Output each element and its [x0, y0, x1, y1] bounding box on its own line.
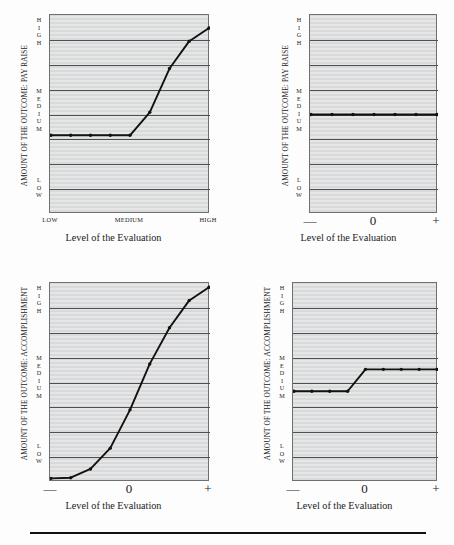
y-axis-title-wrapper: AMOUNT OF THE OUTCOME: PAY RAISE [18, 8, 32, 223]
y-scale-letter: M [33, 87, 45, 95]
data-series-line [51, 287, 209, 478]
y-axis-title: AMOUNT OF THE OUTCOME: ACCOMPLISHMENT [261, 266, 275, 481]
data-point [128, 408, 131, 411]
y-scale-high: H I G H [33, 284, 45, 314]
x-tick-label: — [304, 213, 317, 229]
plot-area [309, 14, 437, 213]
y-scale-letter: D [276, 369, 288, 377]
y-axis-title: AMOUNT OF THE OUTCOME: PAY RAISE [18, 8, 32, 223]
y-scale-letter: M [293, 125, 305, 133]
plot-area [49, 282, 209, 481]
y-scale-letter: G [33, 299, 45, 307]
x-tick-label: 0 [126, 481, 133, 497]
data-point [128, 134, 131, 137]
data-point [69, 476, 72, 479]
plot-svg [50, 283, 210, 482]
x-tick-label: HIGH [199, 216, 216, 223]
x-tick-label: LOW [42, 216, 57, 223]
y-scale-letter: E [293, 95, 305, 103]
data-point [328, 390, 331, 393]
y-scale-letter: W [293, 191, 305, 199]
y-scale-letter: I [33, 24, 45, 32]
x-tick-label: MEDIUM [115, 216, 143, 223]
y-scale-high: H I G H [293, 16, 305, 46]
y-scale-letter: D [33, 369, 45, 377]
chart-panel-top-left: AMOUNT OF THE OUTCOME: PAY RAISE H I G H… [0, 0, 227, 250]
data-point [50, 134, 53, 137]
y-scale-letter: M [33, 354, 45, 362]
x-tick-label: 0 [361, 481, 368, 497]
y-scale-letter: D [33, 102, 45, 110]
data-point [351, 113, 354, 116]
y-scale-letter: W [276, 457, 288, 465]
y-scale-letter: O [33, 184, 45, 192]
y-scale-letter: O [293, 184, 305, 192]
figure-page: AMOUNT OF THE OUTCOME: PAY RAISE H I G H… [0, 0, 454, 545]
x-axis-title: Level of the Evaluation [0, 500, 227, 511]
data-point [188, 39, 191, 42]
y-scale-letter: E [276, 362, 288, 370]
y-scale-letter: H [33, 307, 45, 315]
y-scale-letter: G [293, 31, 305, 39]
y-axis-title-wrapper: AMOUNT OF THE OUTCOME: ACCOMPLISHMENT [18, 266, 32, 481]
y-scale-letter: L [33, 442, 45, 450]
y-scale-letter: M [276, 392, 288, 400]
data-point [69, 134, 72, 137]
x-tick-label: + [432, 213, 439, 229]
plot-svg [310, 15, 438, 214]
y-scale-letter: D [293, 102, 305, 110]
y-scale-letter: H [293, 39, 305, 47]
y-scale-high: H I G H [276, 284, 288, 314]
y-scale-letter: I [293, 110, 305, 118]
data-point [414, 113, 417, 116]
plot-svg [293, 283, 438, 482]
data-point [109, 446, 112, 449]
data-point [89, 134, 92, 137]
y-scale-letter: I [276, 377, 288, 385]
y-axis-title: AMOUNT OF THE OUTCOME: PAY RAISE [279, 8, 293, 223]
y-scale-letter: I [33, 292, 45, 300]
x-tick-label: 0 [370, 213, 377, 229]
chart-panel-bottom-left: AMOUNT OF THE OUTCOME: ACCOMPLISHMENT H … [0, 258, 227, 508]
x-tick-label: — [44, 481, 57, 497]
data-point [148, 362, 151, 365]
y-scale-medium: M E D I U M [33, 87, 45, 133]
footer-divider [30, 532, 426, 534]
y-scale-letter: M [33, 125, 45, 133]
x-axis-title: Level of the Evaluation [235, 500, 454, 511]
y-scale-letter: H [276, 284, 288, 292]
chart-panel-top-right: AMOUNT OF THE OUTCOME: PAY RAISE H I G H… [227, 0, 454, 250]
y-scale-letter: I [276, 292, 288, 300]
data-point [89, 467, 92, 470]
y-scale-letter: L [293, 176, 305, 184]
y-scale-letter: M [293, 87, 305, 95]
data-point [382, 368, 385, 371]
data-point [364, 368, 367, 371]
data-point [330, 113, 333, 116]
y-scale-letter: U [276, 384, 288, 392]
plot-area [49, 14, 209, 213]
y-scale-letter: H [276, 307, 288, 315]
x-axis-title: Level of the Evaluation [243, 232, 454, 243]
x-tick-label: + [204, 481, 211, 497]
data-series-line [294, 369, 437, 391]
data-point [310, 390, 313, 393]
data-point [109, 134, 112, 137]
y-scale-letter: G [276, 299, 288, 307]
y-axis-title-wrapper: AMOUNT OF THE OUTCOME: PAY RAISE [279, 8, 293, 223]
y-scale-low: L O W [276, 442, 288, 465]
y-scale-letter: G [33, 31, 45, 39]
y-scale-letter: E [33, 95, 45, 103]
data-point [372, 113, 375, 116]
y-scale-medium: M E D I U M [276, 354, 288, 400]
y-scale-letter: H [293, 16, 305, 24]
y-scale-medium: M E D I U M [33, 354, 45, 400]
data-series-line [51, 28, 209, 135]
y-scale-letter: H [33, 284, 45, 292]
y-scale-letter: U [33, 117, 45, 125]
y-scale-high: H I G H [33, 16, 45, 46]
y-scale-low: L O W [33, 442, 45, 465]
chart-panel-bottom-right: AMOUNT OF THE OUTCOME: ACCOMPLISHMENT H … [227, 258, 454, 508]
data-point [293, 390, 296, 393]
data-point [168, 67, 171, 70]
